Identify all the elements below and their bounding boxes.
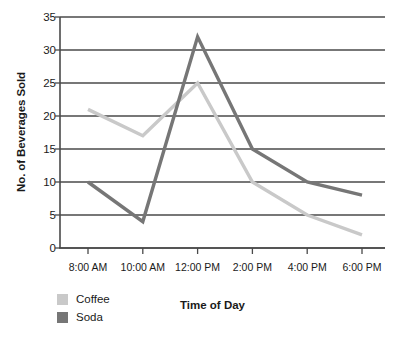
x-tick-label: 2:00 PM: [233, 261, 272, 273]
chart-legend: CoffeeSoda: [57, 293, 110, 323]
x-tick-label: 4:00 PM: [288, 261, 327, 273]
legend-swatch-icon: [57, 294, 68, 305]
x-axis-title: Time of Day: [180, 299, 245, 311]
x-axis-tick-labels: 8:00 AM10:00 AM12:00 PM2:00 PM4:00 PM6:0…: [0, 0, 402, 340]
x-tick-label: 12:00 PM: [175, 261, 220, 273]
legend-label: Soda: [76, 311, 103, 323]
x-tick-label: 8:00 AM: [69, 261, 108, 273]
legend-label: Coffee: [76, 293, 110, 305]
legend-item-soda: Soda: [57, 311, 110, 323]
beverages-sold-line-chart: No. of Beverages Sold 05101520253035 8:0…: [0, 0, 402, 340]
x-tick-label: 6:00 PM: [342, 261, 381, 273]
x-tick-label: 10:00 AM: [121, 261, 165, 273]
legend-item-coffee: Coffee: [57, 293, 110, 305]
legend-swatch-icon: [57, 312, 68, 323]
